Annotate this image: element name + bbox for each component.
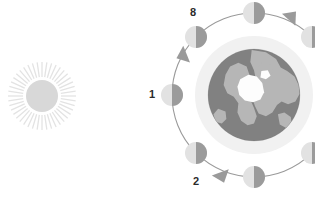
moon-4-dark-half	[312, 142, 315, 164]
sun-ray	[20, 70, 30, 81]
moon-3-dark-half	[254, 166, 265, 188]
moon-label-2: 2	[193, 175, 199, 187]
arrow-lower-left-icon	[212, 169, 233, 185]
sun-ray	[45, 62, 47, 77]
sun-ray	[56, 74, 67, 84]
sun-ray	[61, 99, 76, 101]
moon-3	[243, 166, 265, 188]
moon-label-8: 8	[190, 6, 196, 18]
sun-ray	[8, 91, 23, 93]
sun-ray	[20, 110, 30, 121]
sun-disc	[26, 80, 58, 112]
sun-ray	[54, 70, 64, 81]
moon-2	[185, 142, 207, 164]
moon-1	[161, 84, 183, 106]
moon-8-top-dark-half	[254, 2, 265, 24]
arrow-upper-right-icon	[282, 6, 303, 26]
arrow-upper-left-icon	[173, 46, 190, 67]
sun-ray	[16, 74, 27, 84]
moon-1-dark-half	[172, 84, 183, 106]
moon-7-dark-half	[312, 26, 315, 48]
sun-ray	[61, 91, 76, 93]
sun	[8, 62, 76, 130]
sun-ray	[8, 99, 23, 101]
earth-globe	[208, 49, 300, 141]
moon-phase-diagram: 128	[0, 0, 315, 200]
sun-ray	[37, 62, 39, 77]
moon-8	[185, 26, 207, 48]
moon-8-top	[243, 2, 265, 24]
sun-ray	[37, 115, 39, 130]
sun-ray	[16, 108, 27, 118]
sun-ray	[45, 115, 47, 130]
sun-ray	[54, 110, 64, 121]
sun-ray	[56, 108, 67, 118]
moon-label-1: 1	[149, 88, 155, 100]
